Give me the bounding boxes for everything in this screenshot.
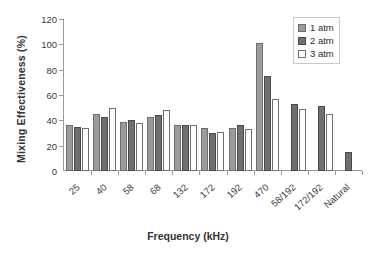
x-tick-mark	[308, 171, 309, 175]
x-tick-mark	[145, 171, 146, 175]
bar	[264, 76, 271, 171]
bar-group	[254, 19, 281, 171]
bar	[326, 114, 333, 171]
bar	[147, 117, 154, 171]
legend: 1 atm 2 atm 3 atm	[293, 17, 340, 64]
x-tick-mark	[118, 171, 119, 175]
bar	[74, 127, 81, 171]
bar	[272, 99, 279, 171]
bar	[245, 129, 252, 171]
x-axis-title: Frequency (kHz)	[0, 230, 376, 242]
bar	[120, 122, 127, 171]
bar	[93, 114, 100, 171]
bar	[136, 123, 143, 171]
bar-group	[145, 19, 172, 171]
x-tick-mark	[227, 171, 228, 175]
y-tick-label: 0	[0, 166, 63, 177]
bar	[163, 110, 170, 171]
y-tick-label: 60	[0, 90, 63, 101]
bar	[190, 125, 197, 171]
bar	[256, 43, 263, 171]
legend-label: 1 atm	[310, 22, 334, 33]
bar-chart: Mixing Effectiveness (%) 020406080100120…	[0, 0, 376, 253]
bar	[217, 132, 224, 171]
legend-swatch-3atm-icon	[298, 50, 306, 58]
bar	[66, 125, 73, 171]
bar	[209, 133, 216, 171]
bar	[318, 106, 325, 171]
legend-item: 2 atm	[298, 34, 334, 47]
bar	[82, 128, 89, 171]
legend-swatch-2atm-icon	[298, 37, 306, 45]
legend-swatch-1atm-icon	[298, 24, 306, 32]
legend-label: 2 atm	[310, 35, 334, 46]
bar-group	[227, 19, 254, 171]
x-tick-mark	[172, 171, 173, 175]
bar	[229, 128, 236, 171]
bar	[174, 125, 181, 171]
bar-group	[199, 19, 226, 171]
x-tick-mark	[254, 171, 255, 175]
bar	[101, 117, 108, 171]
bar	[345, 152, 352, 171]
bar	[291, 104, 298, 171]
bar	[182, 125, 189, 171]
bar	[237, 125, 244, 171]
y-tick-label: 100	[0, 39, 63, 50]
y-tick-label: 120	[0, 14, 63, 25]
bar-group	[64, 19, 91, 171]
x-tick-mark	[335, 171, 336, 175]
bar	[109, 108, 116, 171]
x-tick-mark	[91, 171, 92, 175]
bar	[299, 109, 306, 171]
y-tick-label: 80	[0, 64, 63, 75]
bar	[201, 128, 208, 171]
x-tick-mark	[281, 171, 282, 175]
bar-group	[172, 19, 199, 171]
bar-group	[118, 19, 145, 171]
bar	[155, 115, 162, 171]
legend-label: 3 atm	[310, 48, 334, 59]
legend-item: 3 atm	[298, 47, 334, 60]
bar	[128, 120, 135, 171]
bar-group	[91, 19, 118, 171]
y-tick-label: 20	[0, 140, 63, 151]
y-tick-label: 40	[0, 115, 63, 126]
x-tick-mark	[199, 171, 200, 175]
x-tick-mark	[362, 171, 363, 175]
legend-item: 1 atm	[298, 21, 334, 34]
